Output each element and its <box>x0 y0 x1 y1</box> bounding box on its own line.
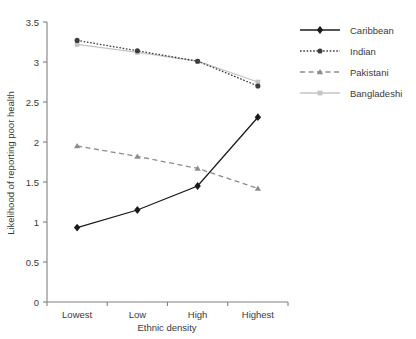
series-line <box>77 44 258 82</box>
x-axis-title: Ethnic density <box>137 322 196 333</box>
x-category-label: Low <box>129 309 147 320</box>
legend-item-bangladeshi[interactable]: Bangladeshi <box>300 88 402 99</box>
legend-label: Indian <box>350 46 376 57</box>
y-tick-label: 1.5 <box>26 177 39 188</box>
series-bangladeshi <box>75 42 261 84</box>
y-axis-title: Likelihood of reporting poor health <box>5 91 16 235</box>
y-tick-label: 3.5 <box>26 17 39 28</box>
series-pakistani <box>74 143 261 191</box>
legend-item-caribbean[interactable]: Caribbean <box>300 25 394 36</box>
data-point-marker-diamond <box>134 206 140 214</box>
legend-item-pakistani[interactable]: Pakistani <box>300 67 389 78</box>
y-tick-label: 3 <box>34 57 39 68</box>
data-point-marker-circle <box>195 59 200 64</box>
data-point-marker-triangle <box>134 153 140 158</box>
y-tick-label: 1 <box>34 217 39 228</box>
data-point-marker-diamond <box>317 26 323 34</box>
x-category-label: High <box>188 309 208 320</box>
y-tick-label: 2.5 <box>26 97 39 108</box>
data-series-layer <box>74 38 261 232</box>
y-tick-label: 0 <box>34 297 39 308</box>
legend-label: Bangladeshi <box>350 88 402 99</box>
legend-item-indian[interactable]: Indian <box>300 46 376 57</box>
x-axis-category-labels: LowestLowHighHighest <box>62 309 274 320</box>
y-tick-label: 0.5 <box>26 257 39 268</box>
series-line <box>77 40 258 86</box>
series-line <box>77 146 258 188</box>
data-point-marker-diamond <box>74 224 80 232</box>
series-caribbean <box>74 113 261 231</box>
data-point-marker-circle <box>255 83 260 88</box>
y-axis-tick-labels: 00.511.522.533.5 <box>26 17 39 308</box>
data-point-marker-triangle <box>255 185 261 190</box>
x-axis-ticks <box>47 302 288 306</box>
data-point-marker-circle <box>317 48 322 53</box>
chart-container: 00.511.522.533.5 LowestLowHighHighest Et… <box>0 0 416 339</box>
y-tick-label: 2 <box>34 137 39 148</box>
x-category-label: Lowest <box>62 309 92 320</box>
series-indian <box>75 38 261 89</box>
data-point-marker-circle <box>75 38 80 43</box>
data-point-marker-circle <box>135 48 140 53</box>
data-point-marker-square <box>318 91 323 96</box>
legend-label: Caribbean <box>350 25 394 36</box>
y-axis-ticks <box>43 22 47 302</box>
legend-label: Pakistani <box>350 67 389 78</box>
line-chart-figure: 00.511.522.533.5 LowestLowHighHighest Et… <box>0 0 416 339</box>
chart-legend: CaribbeanIndianPakistaniBangladeshi <box>300 25 402 99</box>
series-line <box>77 117 258 227</box>
x-category-label: Highest <box>242 309 275 320</box>
